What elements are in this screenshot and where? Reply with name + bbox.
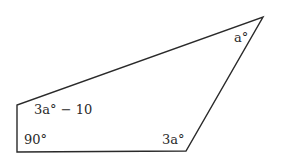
angle-label-bottom-right: 3a° (162, 132, 185, 147)
angle-label-top-right: a° (234, 30, 248, 45)
quadrilateral-diagram: 90° 3a° − 10 a° 3a° (0, 0, 281, 160)
quadrilateral-shape (17, 17, 263, 152)
angle-label-bottom-left: 90° (24, 132, 47, 147)
angle-label-top-left: 3a° − 10 (34, 102, 92, 117)
